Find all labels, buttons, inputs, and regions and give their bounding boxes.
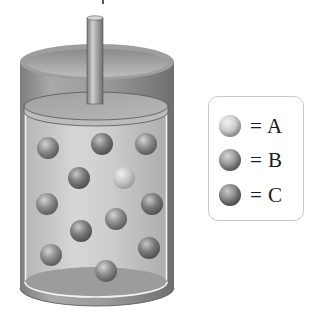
- legend-label-c: = C: [250, 183, 283, 208]
- ball-a-icon: [219, 115, 241, 137]
- legend: = A = B = C: [208, 96, 304, 221]
- legend-label-b: = B: [250, 148, 283, 173]
- legend-label-a: = A: [250, 114, 283, 139]
- molecule-c: [68, 167, 90, 189]
- molecule-b: [95, 260, 117, 282]
- molecule-c: [70, 220, 92, 242]
- molecule-a: [113, 167, 135, 189]
- ball-c-icon: [219, 184, 241, 206]
- molecule-b: [40, 244, 62, 266]
- molecule-b: [135, 133, 157, 155]
- ball-b-icon: [219, 149, 241, 171]
- molecule-c: [138, 237, 160, 259]
- molecule-b: [37, 137, 59, 159]
- molecule-b: [36, 193, 58, 215]
- piston-rod: [87, 16, 103, 104]
- molecule-c: [141, 193, 163, 215]
- molecule-b: [105, 208, 127, 230]
- legend-item-b: = B: [219, 147, 283, 173]
- stray-mark: [102, 0, 104, 4]
- legend-item-c: = C: [219, 182, 283, 208]
- molecule-c: [91, 133, 113, 155]
- legend-item-a: = A: [219, 113, 283, 139]
